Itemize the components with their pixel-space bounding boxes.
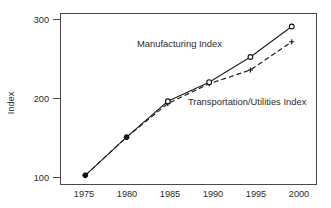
y-tick-label-100: 100 (34, 173, 49, 183)
data-point (83, 173, 88, 178)
data-point (248, 55, 253, 60)
chart-figure: 300 200 100 Index 1975 1980 1985 1990 19… (0, 0, 331, 208)
series-markers-transportation-utilities (83, 39, 295, 178)
data-point (165, 99, 170, 104)
line-chart: 300 200 100 Index 1975 1980 1985 1990 19… (0, 0, 331, 208)
x-tick-label-2000: 2000 (289, 189, 309, 199)
data-point (124, 135, 129, 140)
y-axis-title: Index (6, 91, 16, 114)
y-axis-tick-labels: 300 200 100 (34, 15, 49, 183)
x-tick-label-1975: 1975 (74, 189, 94, 199)
y-tick-label-200: 200 (34, 94, 49, 104)
x-axis-tick-labels: 1975 1980 1985 1990 1995 2000 (74, 189, 309, 199)
data-point (207, 80, 212, 85)
x-tick-label-1995: 1995 (246, 189, 266, 199)
annotation-manufacturing-index: Manufacturing Index (137, 38, 222, 49)
x-tick-label-1985: 1985 (160, 189, 180, 199)
annotation-transportation-utilities-index: Transportation/Utilities Index (188, 96, 307, 107)
data-point (289, 39, 294, 44)
x-tick-label-1980: 1980 (117, 189, 137, 199)
data-point (289, 24, 294, 29)
series-line-transportation-utilities (85, 42, 291, 176)
y-axis-ticks (53, 20, 61, 178)
y-tick-label-300: 300 (34, 15, 49, 25)
x-tick-label-1990: 1990 (203, 189, 223, 199)
